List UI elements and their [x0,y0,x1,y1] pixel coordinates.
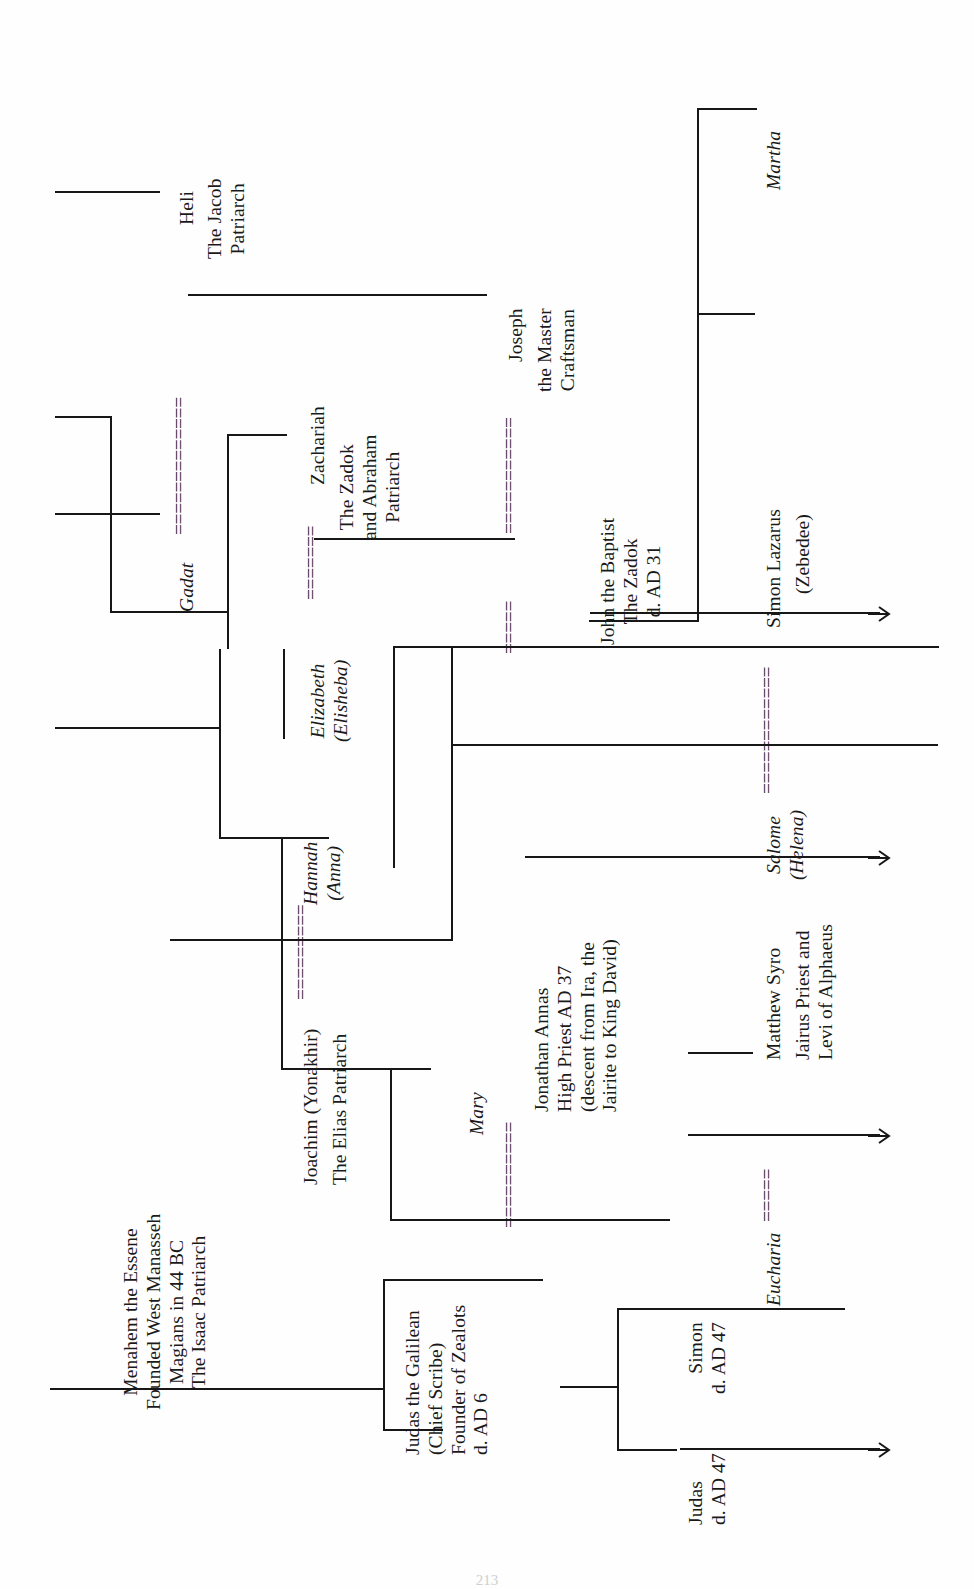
person-heli-name: Heli [176,191,199,225]
person-menahem-line2: Founded West Manasseh [143,1214,166,1410]
person-matthew-line2: Jairus Priest and [792,924,815,1060]
person-simon-lazarus: Simon Lazarus [763,509,786,628]
person-annas-line4: Jairite to King David) [599,939,622,1112]
person-joachim-line2: The Elias Patriarch [329,1034,352,1185]
person-elizabeth-name: Elizabeth [307,660,330,742]
person-simon-lazarus-alt: (Zebedee) [792,514,815,594]
connector-gadat-upper-drop [110,416,112,513]
marriage-rail-joachim-hannah: ========= [290,905,312,1000]
person-hannah-name: Hannah [300,842,323,905]
person-matthew-syro: Matthew Syro [763,948,786,1060]
connector-gadat-mid [55,513,160,515]
person-elizabeth: Elizabeth (Elisheba) [307,660,353,742]
person-judas: Judas d. AD 47 [685,1453,731,1525]
connector-gadat-lower [110,611,229,613]
connector-mary-mid-branch [451,744,538,746]
person-menahem: Menahem the Essene Founded West Manasseh… [120,1214,211,1410]
connector-heli-incoming [55,191,160,193]
person-simon-name: Simon [685,1322,708,1394]
connector-menahem-branch-up [383,1279,543,1281]
person-elizabeth-alt: (Elisheba) [330,660,353,742]
person-joseph-line3: Craftsman [557,308,580,392]
person-annas-line3: (descent from Ira, the [577,939,600,1112]
marriage-rail-mary-jonathan-annas: ========== [498,1122,520,1228]
person-heli-line2: The Jacob [204,179,227,260]
person-mary-name: Mary [466,1092,489,1135]
person-judasgal-name: Judas the Galilean [402,1305,425,1455]
connector-sibling-bracket-bottom [219,837,329,839]
connector-lazarus-self [697,313,755,315]
person-simon-lazarus-line2: (Zebedee) [792,514,815,594]
person-mary: Mary [466,1092,489,1135]
person-gadat: Gadat [176,563,199,612]
marriage-rail-salome-simon-lazarus: ============ [756,667,778,794]
person-simon-lazarus-name: Simon Lazarus [763,509,786,628]
person-heli-line3: Patriarch [227,179,250,260]
person-annas-line2: High Priest AD 37 [554,939,577,1112]
marriage-rail-elizabeth-zachariah: ======= [300,526,322,600]
person-eucharia: Eucharia [763,1233,786,1306]
connector-eucharia-spine [390,1069,392,1220]
connector-mary-spine [451,646,453,941]
person-zachariah: Zachariah [307,406,330,485]
person-joseph: Joseph [505,308,528,362]
person-martha-name: Martha [763,131,786,190]
person-judas-name: Judas [685,1453,708,1525]
marriage-rail-eucharia-matthew: ===== [756,1169,778,1222]
connector-zachariah-top [227,434,287,436]
person-zachariah-titles: The Zadok and Abraham Patriarch [336,434,404,540]
connector-joachim-spine [281,838,283,942]
person-john-line3: d. AD 31 [643,518,666,645]
connector-sibling-spine [219,649,221,839]
person-judasgal-line3: Founder of Zealots [448,1305,471,1455]
person-heli: Heli [176,191,199,225]
person-john-the-baptist: John the Baptist The Zadok d. AD 31 [597,518,665,645]
person-salome-alt: (Helena) [786,810,809,880]
person-judasgal-line2: (Chief Scribe) [425,1305,448,1455]
connector-matthew-feed [688,1052,753,1054]
connector-salome-spine [393,646,395,868]
person-salome: Salome (Helena) [763,810,809,880]
genealogy-chart-page: ============= ======= =========== ===== … [0,0,974,1589]
person-hannah-alt: (Anna) [323,842,346,905]
marriage-rail-john-the-baptist: ===== [498,601,520,654]
person-joachim: Joachim (Yonakhir) [300,1029,323,1185]
connector-sibling-inner [283,649,285,739]
connector-annas-branch [538,744,938,746]
connector-lazarus-spine [697,108,699,621]
person-zachariah-name: Zachariah [307,406,330,485]
person-eucharia-name: Eucharia [763,1233,786,1306]
person-salome-name: Salome [763,810,786,880]
person-joseph-line2: the Master [534,308,557,392]
connector-to-simon [617,1308,845,1310]
connector-judasgal-children-spine [617,1308,619,1450]
connector-menahem-spine [383,1279,385,1430]
person-matthew-name: Matthew Syro [763,948,786,1060]
marriage-rail-gadat-heli: ============= [168,397,190,535]
page-number: 213 [0,1572,974,1589]
person-annas-name: Jonathan Annas [531,939,554,1112]
person-matthew-line3: Levi of Alphaeus [815,924,838,1060]
marriage-rail-joseph: =========== [498,417,520,534]
person-heli-titles: The Jacob Patriarch [204,179,250,260]
person-judasgal-line4: d. AD 6 [470,1305,493,1455]
connector-menahem-to-spine [185,1388,385,1390]
connector-salome-feed [393,646,453,648]
connector-gadat-upper [55,416,111,418]
person-gadat-name: Gadat [176,563,199,612]
connector-joachim-down [281,939,283,1069]
person-menahem-line3: Magians in 44 BC [166,1214,189,1410]
connector-eucharia-feed [390,1219,670,1221]
person-martha: Martha [763,131,786,190]
person-judas-the-galilean: Judas the Galilean (Chief Scribe) Founde… [402,1305,493,1455]
person-zachariah-line3: and Abraham [359,434,382,540]
connector-zachariah-spine [227,434,229,649]
person-menahem-line4: The Isaac Patriarch [188,1214,211,1410]
person-joachim-name: Joachim (Yonakhir) [300,1029,323,1185]
connector-sibling-bracket-top [55,727,221,729]
person-zachariah-line4: Patriarch [382,434,405,540]
person-john-name: John the Baptist [597,518,620,645]
person-hannah: Hannah (Anna) [300,842,346,905]
connector-joachim-left [170,939,282,941]
person-joseph-titles: the Master Craftsman [534,308,580,392]
